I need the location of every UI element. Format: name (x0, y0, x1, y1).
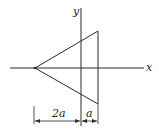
apex-point (34, 67, 37, 70)
x-axis-label: x (146, 61, 153, 74)
y-axis-label: y (72, 5, 80, 18)
triangle-diagram: x y 2a a (0, 0, 159, 135)
dimension-a-label: a (86, 107, 93, 120)
dimension-2a-label: 2a (51, 107, 66, 120)
